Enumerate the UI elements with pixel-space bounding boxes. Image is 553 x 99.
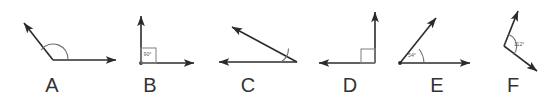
figure-e-ray-upper-right xyxy=(400,18,436,63)
figure-a-letter: A xyxy=(45,74,59,96)
figure-e-letter: E xyxy=(430,74,443,96)
figure-a-angle-arc xyxy=(41,44,68,60)
figure-b-letter: B xyxy=(143,74,156,96)
figure-d: D xyxy=(319,12,375,96)
figure-c-letter: C xyxy=(241,74,255,96)
figure-a-ray-upper-left xyxy=(24,23,53,60)
figure-c-ray-upper-left xyxy=(232,27,297,62)
figure-f-letter: F xyxy=(507,74,519,96)
figure-e-vertex-dot xyxy=(398,61,402,65)
angle-figures-canvas: A 90° B C D xyxy=(0,0,553,99)
figure-e: 54° E xyxy=(398,18,470,96)
figure-d-letter: D xyxy=(343,74,357,96)
figure-c: C xyxy=(219,27,297,96)
figure-f-angle-label: 112° xyxy=(514,41,524,47)
figure-e-angle-arc xyxy=(419,49,424,63)
figure-b: 90° B xyxy=(139,16,194,96)
figure-b-angle-label: 90° xyxy=(144,51,152,57)
figure-f: 112° F xyxy=(504,11,537,96)
figure-f-ray-lower-right xyxy=(504,46,537,71)
figure-e-angle-label: 54° xyxy=(408,52,416,58)
figure-d-right-angle-box xyxy=(361,49,375,63)
figure-a: A xyxy=(24,23,116,96)
angle-diagram-sheet: A 90° B C D xyxy=(0,0,553,99)
